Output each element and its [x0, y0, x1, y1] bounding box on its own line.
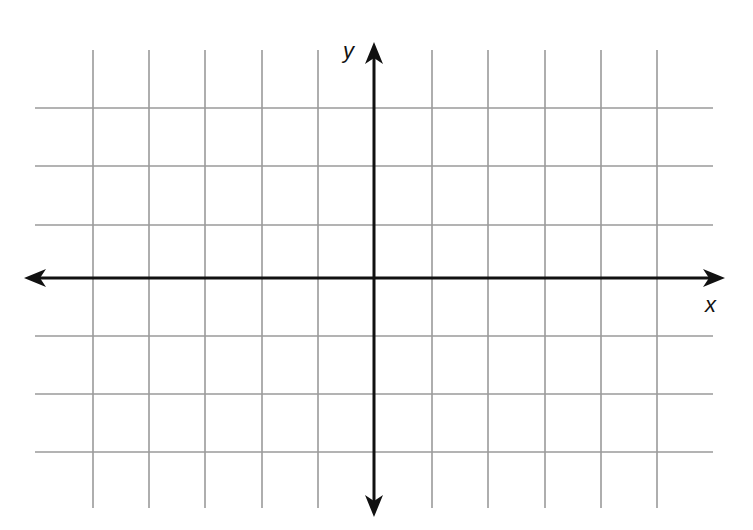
y-axis-label: y: [341, 38, 356, 63]
axes: [24, 42, 725, 517]
x-axis-label: x: [704, 292, 717, 317]
coordinate-plane: y x: [0, 0, 753, 530]
